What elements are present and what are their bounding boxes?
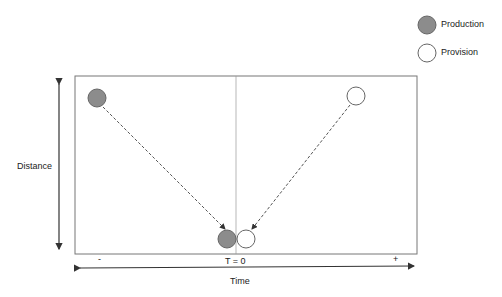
- time-minus-label: -: [98, 254, 101, 264]
- distance-axis-label: Distance: [17, 161, 52, 171]
- time-axis-label: Time: [230, 276, 250, 286]
- legend-provision-swatch: [418, 44, 436, 62]
- t-zero-label: T = 0: [225, 256, 246, 266]
- provision-start-circle: [347, 87, 365, 105]
- time-axis: [80, 266, 414, 268]
- provision-end-circle: [237, 230, 255, 248]
- time-plus-label: +: [393, 254, 398, 264]
- legend-production-swatch: [418, 16, 436, 34]
- production-start-circle: [88, 89, 106, 107]
- provision-path-arrow: [252, 105, 350, 229]
- production-end-circle: [218, 230, 236, 248]
- production-path-arrow: [103, 107, 225, 229]
- diagram-canvas: [0, 0, 502, 297]
- legend-production-label: Production: [441, 19, 484, 29]
- legend-provision-label: Provision: [441, 47, 478, 57]
- plot-frame: [75, 76, 417, 254]
